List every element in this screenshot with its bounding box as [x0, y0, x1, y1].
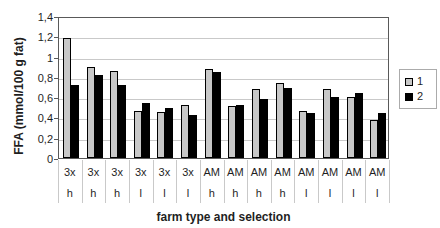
bar-series1-cat4: [134, 111, 142, 158]
category-farm-type-label: AM: [342, 166, 366, 178]
category-separator-line: [200, 160, 201, 203]
y-tick-label: 1,4: [23, 12, 53, 23]
category-separator-line: [365, 160, 366, 203]
y-tick-mark: [54, 58, 58, 59]
legend-label: 1: [417, 76, 423, 87]
bar-series1-cat10: [276, 83, 284, 158]
category-selection-label: h: [224, 187, 248, 199]
category-label-cell: 3xh: [58, 160, 82, 203]
category-farm-type-label: 3x: [58, 166, 82, 178]
category-label-cell: 3xh: [82, 160, 106, 203]
bar-series2-cat9: [260, 99, 268, 158]
category-selection-label: l: [318, 187, 342, 199]
category-farm-type-label: 3x: [129, 166, 153, 178]
category-label-cell: AMh: [271, 160, 295, 203]
bar-series2-cat3: [118, 85, 126, 158]
category-selection-label: h: [200, 187, 224, 199]
bar-series1-cat6: [181, 105, 189, 158]
category-separator-line: [129, 160, 130, 203]
category-separator-line: [224, 160, 225, 203]
y-tick-label: 0,6: [23, 93, 53, 104]
category-farm-type-label: AM: [271, 166, 295, 178]
legend-swatch-icon: [405, 93, 413, 101]
gridline: [59, 59, 388, 60]
legend-entry-series2: 2: [405, 89, 436, 104]
category-farm-type-label: AM: [200, 166, 224, 178]
y-tick-label: 0,2: [23, 134, 53, 145]
bar-series2-cat1: [71, 85, 79, 158]
category-selection-label: h: [58, 187, 82, 199]
x-axis-title: farm type and selection: [156, 210, 290, 224]
category-farm-type-label: 3x: [176, 166, 200, 178]
category-farm-type-label: 3x: [105, 166, 129, 178]
category-label-cell: 3xl: [153, 160, 177, 203]
category-separator-line: [389, 160, 390, 203]
category-separator-line: [247, 160, 248, 203]
category-separator-line: [318, 160, 319, 203]
category-separator-line: [58, 160, 59, 203]
bar-series2-cat7: [213, 72, 221, 158]
category-label-cell: 3xl: [129, 160, 153, 203]
bar-series2-cat13: [355, 93, 363, 158]
category-farm-type-label: AM: [224, 166, 248, 178]
category-selection-label: h: [247, 187, 271, 199]
y-tick-label: 1,2: [23, 32, 53, 43]
bar-series2-cat2: [95, 75, 103, 158]
bar-series1-cat1: [63, 38, 71, 158]
x-axis-title-wrap: farm type and selection: [58, 207, 389, 225]
bar-series2-cat10: [284, 88, 292, 158]
bar-series1-cat8: [228, 106, 236, 158]
bar-series1-cat7: [205, 69, 213, 158]
category-farm-type-label: 3x: [82, 166, 106, 178]
bar-series1-cat9: [252, 89, 260, 158]
category-selection-label: h: [105, 187, 129, 199]
y-tick-mark: [54, 37, 58, 38]
bar-series1-cat2: [87, 67, 95, 158]
bar-series2-cat14: [378, 113, 386, 158]
category-label-cell: AMl: [294, 160, 318, 203]
bar-series1-cat12: [323, 89, 331, 158]
category-farm-type-label: AM: [247, 166, 271, 178]
category-selection-label: l: [176, 187, 200, 199]
y-tick-mark: [54, 17, 58, 18]
category-label-cell: AMh: [247, 160, 271, 203]
y-tick-label: 0,8: [23, 73, 53, 84]
category-separator-line: [294, 160, 295, 203]
bar-series2-cat12: [331, 97, 339, 158]
category-label-cell: AMh: [224, 160, 248, 203]
category-separator-line: [271, 160, 272, 203]
category-farm-type-label: AM: [294, 166, 318, 178]
category-selection-label: l: [342, 187, 366, 199]
bar-series1-cat3: [110, 71, 118, 158]
plot-area: [58, 17, 389, 159]
y-tick-mark: [54, 118, 58, 119]
y-tick-label: 0,4: [23, 113, 53, 124]
category-selection-label: l: [294, 187, 318, 199]
bar-series2-cat6: [189, 115, 197, 158]
category-selection-label: l: [153, 187, 177, 199]
legend-entry-series1: 1: [405, 74, 436, 89]
gridline: [59, 38, 388, 39]
category-separator-line: [105, 160, 106, 203]
category-separator-line: [153, 160, 154, 203]
category-selection-label: h: [271, 187, 295, 199]
legend-label: 2: [417, 91, 423, 102]
category-separator-line: [176, 160, 177, 203]
bar-series1-cat13: [347, 97, 355, 158]
category-label-cell: 3xh: [105, 160, 129, 203]
category-label-cell: AMl: [342, 160, 366, 203]
y-tick-mark: [54, 139, 58, 140]
bar-series1-cat11: [299, 111, 307, 158]
gridline: [59, 79, 388, 80]
legend-swatch-icon: [405, 78, 413, 86]
category-separator-line: [82, 160, 83, 203]
category-farm-type-label: AM: [365, 166, 389, 178]
legend: 12: [399, 69, 437, 109]
bar-series2-cat4: [142, 103, 150, 158]
y-tick-label: 1: [23, 53, 53, 64]
category-label-cell: 3xl: [176, 160, 200, 203]
category-selection-label: l: [365, 187, 389, 199]
category-separator-line: [342, 160, 343, 203]
bar-series1-cat5: [157, 112, 165, 158]
y-tick-mark: [54, 98, 58, 99]
